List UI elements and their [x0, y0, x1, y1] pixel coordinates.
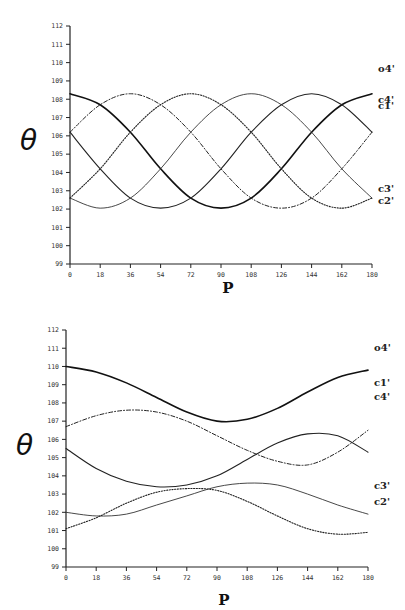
y-axis-title: θ [16, 429, 33, 462]
y-tick-label: 112 [51, 22, 63, 30]
y-tick-label: 106 [47, 436, 59, 444]
x-tick-label: 72 [187, 271, 195, 279]
x-tick-label: 144 [302, 574, 314, 582]
y-tick-label: 107 [47, 417, 59, 425]
x-tick-label: 108 [245, 271, 257, 279]
y-tick-label: 106 [51, 132, 63, 140]
series-line-c1-prime [66, 410, 368, 465]
y-tick-label: 109 [51, 77, 63, 85]
y-tick-label: 105 [51, 150, 63, 158]
x-tick-label: 180 [366, 271, 378, 279]
x-tick-label: 108 [241, 574, 253, 582]
series-label: c2' [378, 195, 394, 206]
y-tick-label: 107 [51, 114, 63, 122]
y-tick-label: 102 [51, 205, 63, 213]
x-tick-label: 162 [332, 574, 344, 582]
series-line-c2-prime [66, 488, 368, 534]
x-tick-label: 72 [183, 574, 191, 582]
x-tick-label: 126 [276, 271, 288, 279]
x-tick-label: 18 [92, 574, 100, 582]
top-chart: 9910010110210310410510610710810911011111… [0, 0, 405, 305]
x-tick-label: 18 [96, 271, 104, 279]
y-tick-label: 101 [51, 224, 63, 232]
y-tick-label: 105 [47, 454, 59, 462]
bottom-chart: 9910010110210310410510610710810911011111… [0, 305, 405, 610]
y-tick-label: 108 [51, 96, 63, 104]
x-tick-label: 36 [126, 271, 134, 279]
y-tick-label: 109 [47, 381, 59, 389]
y-axis-title: θ [20, 124, 37, 157]
x-axis-title: P [222, 279, 233, 297]
y-tick-label: 104 [47, 472, 59, 480]
series-line-o4-prime [66, 366, 368, 421]
x-tick-label: 90 [217, 271, 225, 279]
top-chart-svg: 9910010110210310410510610710810911011111… [0, 0, 405, 305]
y-tick-label: 110 [47, 363, 59, 371]
y-tick-label: 111 [51, 41, 63, 49]
x-tick-label: 0 [64, 574, 68, 582]
series-label: c1' [374, 377, 390, 388]
series-label: c3' [378, 183, 394, 194]
y-tick-label: 100 [47, 545, 59, 553]
series-label: c1' [378, 100, 394, 111]
x-tick-label: 54 [153, 574, 161, 582]
x-tick-label: 162 [336, 271, 348, 279]
x-axis-title: P [218, 591, 229, 609]
x-tick-label: 180 [362, 574, 374, 582]
bottom-chart-svg: 9910010110210310410510610710810911011111… [0, 305, 405, 610]
x-tick-label: 36 [122, 574, 130, 582]
series-label: o4' [378, 63, 395, 74]
series-label: c2' [374, 496, 390, 507]
y-tick-label: 102 [47, 509, 59, 517]
y-tick-label: 108 [47, 399, 59, 407]
y-tick-label: 103 [51, 187, 63, 195]
y-tick-label: 104 [51, 169, 63, 177]
x-tick-label: 126 [272, 574, 284, 582]
x-tick-label: 90 [213, 574, 221, 582]
x-tick-label: 54 [157, 271, 165, 279]
y-tick-label: 112 [47, 326, 59, 334]
series-label: c4' [374, 391, 390, 402]
y-tick-label: 99 [55, 260, 63, 268]
y-tick-label: 103 [47, 490, 59, 498]
y-tick-label: 110 [51, 59, 63, 67]
series-label: c3' [374, 480, 390, 491]
x-tick-label: 144 [306, 271, 318, 279]
series-label: o4' [374, 342, 391, 353]
y-tick-label: 101 [47, 527, 59, 535]
y-tick-label: 111 [47, 345, 59, 353]
y-tick-label: 100 [51, 242, 63, 250]
x-tick-label: 0 [68, 271, 72, 279]
y-tick-label: 99 [51, 563, 59, 571]
